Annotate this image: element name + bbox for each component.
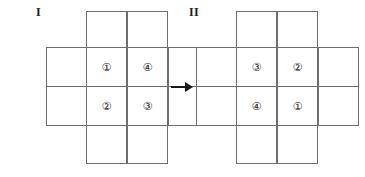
net-cell-top-stub-right	[127, 11, 168, 50]
net-cell-left-arm-upper	[46, 47, 87, 87]
net-cell-left-arm-upper	[196, 47, 237, 87]
diagram-canvas: I ① ④ ② ③	[0, 0, 365, 177]
net-cell-center-bottom-left: ④	[236, 86, 277, 126]
net-cell-center-bottom-left: ②	[86, 86, 127, 126]
net-cell-number: ①	[278, 87, 317, 125]
net-cell-left-arm-lower	[196, 86, 237, 126]
net-cell-center-bottom-right: ③	[127, 86, 168, 126]
net-cell-right-arm-lower	[318, 86, 359, 126]
net-cell-number: ①	[87, 48, 126, 86]
net-cell-center-bottom-right: ①	[277, 86, 318, 126]
net-cell-number: ②	[278, 48, 317, 86]
net-cell-left-arm-lower	[46, 86, 87, 126]
net-cell-number: ④	[128, 48, 167, 86]
figure-one-label: I	[36, 6, 41, 18]
net-cell-bottom-stub-right	[127, 125, 168, 164]
net-cell-number: ②	[87, 87, 126, 125]
net-cell-number: ③	[128, 87, 167, 125]
figure-one: I ① ④ ② ③	[38, 0, 168, 177]
net-cell-bottom-stub-left	[236, 125, 277, 164]
net-cell-right-arm-upper	[318, 47, 359, 87]
net-cell-top-stub-right	[277, 11, 318, 50]
net-cell-bottom-stub-left	[86, 125, 127, 164]
net-cell-number: ④	[237, 87, 276, 125]
figure-two: II ③ ② ④ ①	[188, 0, 318, 177]
net-cell-number: ③	[237, 48, 276, 86]
net-cell-bottom-stub-right	[277, 125, 318, 164]
figure-two-label: II	[189, 6, 199, 18]
net-cell-top-stub-left	[86, 11, 127, 50]
net-cell-top-stub-left	[236, 11, 277, 50]
net-cell-center-top-left: ③	[236, 47, 277, 87]
net-cell-center-top-right: ②	[277, 47, 318, 87]
net-cell-center-top-right: ④	[127, 47, 168, 87]
net-cell-center-top-left: ①	[86, 47, 127, 87]
